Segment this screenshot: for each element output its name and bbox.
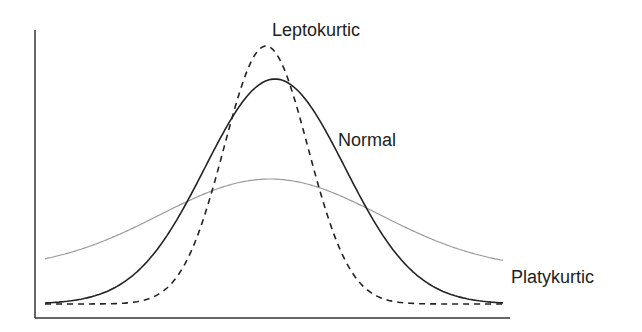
- leptokurtic-curve: [45, 46, 503, 304]
- platykurtic-curve: [45, 179, 503, 260]
- normal-curve: [45, 79, 503, 303]
- normal-label: Normal: [338, 131, 396, 149]
- platykurtic-label: Platykurtic: [511, 268, 594, 286]
- leptokurtic-label: Leptokurtic: [272, 21, 360, 39]
